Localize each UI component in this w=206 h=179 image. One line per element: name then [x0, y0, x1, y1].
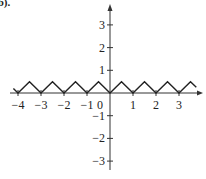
x-tick-label: −3: [35, 98, 48, 112]
x-axis-arrow-icon: [197, 91, 203, 96]
axes: [10, 4, 203, 170]
y-tick-label: 2: [99, 41, 105, 55]
y-axis-arrow-icon: [108, 4, 113, 11]
y-tick-label: −3: [92, 154, 105, 168]
x-tick-label: 2: [153, 98, 159, 112]
y-tick-label: −1: [92, 109, 105, 123]
y-tick-label: 1: [99, 63, 105, 77]
x-tick-label: 3: [176, 98, 182, 112]
x-tick-label: 1: [130, 98, 136, 112]
figure-label: (b).: [0, 0, 10, 9]
x-tick-label: −4: [12, 98, 25, 112]
triangle-wave-chart: (b). −4−3−2−11230321−1−2−3: [0, 0, 206, 179]
x-tick-label: −2: [58, 98, 71, 112]
y-tick-label: 3: [99, 18, 105, 32]
y-tick-label: −2: [92, 131, 105, 145]
